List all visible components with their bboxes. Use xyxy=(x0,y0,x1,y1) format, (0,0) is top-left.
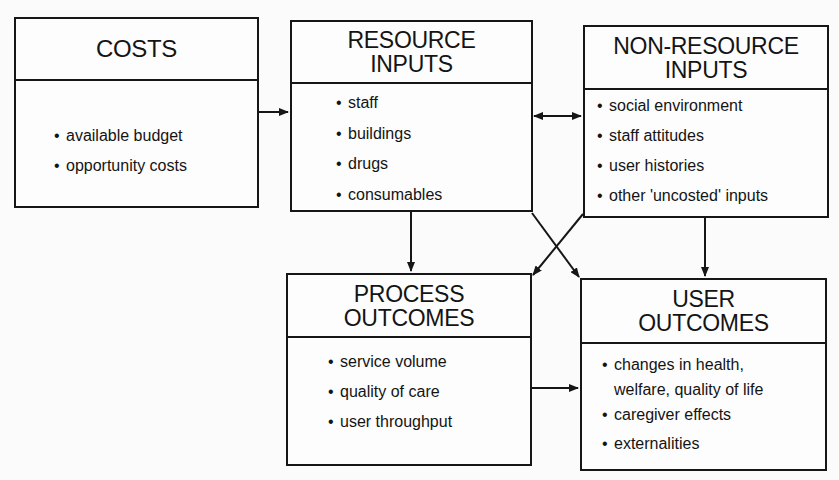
non-resource-inputs-title-line1: NON-RESOURCE xyxy=(613,34,799,58)
list-item: staff xyxy=(336,88,531,119)
resource-inputs-header: RESOURCE INPUTS xyxy=(292,22,531,84)
process-outcomes-title-line1: PROCESS xyxy=(354,282,464,306)
list-item: user histories xyxy=(597,151,827,181)
process-outcomes-title-line2: OUTCOMES xyxy=(344,306,475,330)
list-item: social environment xyxy=(597,91,827,121)
costs-box: COSTS available budget opportunity costs xyxy=(14,17,259,208)
resource-inputs-items: staff buildings drugs consumables xyxy=(292,84,531,210)
non-resource-inputs-box: NON-RESOURCE INPUTS social environment s… xyxy=(583,25,829,218)
costs-items: available budget opportunity costs xyxy=(16,81,257,181)
list-item: drugs xyxy=(336,149,531,180)
costs-header: COSTS xyxy=(16,19,257,81)
non-resource-inputs-items: social environment staff attitudes user … xyxy=(585,90,827,211)
process-outcomes-items: service volume quality of care user thro… xyxy=(288,338,530,437)
list-item: available budget xyxy=(54,121,257,151)
user-outcomes-box: USER OUTCOMES changes in health, welfare… xyxy=(580,278,827,471)
list-item: buildings xyxy=(336,119,531,150)
process-outcomes-box: PROCESS OUTCOMES service volume quality … xyxy=(286,273,532,466)
non-resource-inputs-header: NON-RESOURCE INPUTS xyxy=(585,27,827,90)
process-outcomes-header: PROCESS OUTCOMES xyxy=(288,275,530,338)
list-item: quality of care xyxy=(328,377,530,407)
user-outcomes-items: changes in health, welfare, quality of l… xyxy=(582,344,825,456)
resource-inputs-title-line1: RESOURCE xyxy=(348,28,476,52)
list-item: changes in health, xyxy=(602,352,825,377)
list-item: caregiver effects xyxy=(602,402,825,427)
non-resource-inputs-title-line2: INPUTS xyxy=(665,58,748,82)
list-item: service volume xyxy=(328,347,530,377)
resource-inputs-title-line2: INPUTS xyxy=(370,52,453,76)
user-outcomes-title-line2: OUTCOMES xyxy=(638,311,769,335)
list-item: other 'uncosted' inputs xyxy=(597,181,827,211)
user-outcomes-header: USER OUTCOMES xyxy=(582,280,825,344)
list-item-continuation: welfare, quality of life xyxy=(602,377,825,402)
list-item: consumables xyxy=(336,180,531,211)
resource-inputs-box: RESOURCE INPUTS staff buildings drugs co… xyxy=(290,20,533,212)
list-item: user throughput xyxy=(328,407,530,437)
user-outcomes-title-line1: USER xyxy=(672,287,735,311)
list-item: opportunity costs xyxy=(54,151,257,181)
costs-title: COSTS xyxy=(96,37,177,61)
list-item: staff attitudes xyxy=(597,121,827,151)
list-item: externalities xyxy=(602,431,825,456)
